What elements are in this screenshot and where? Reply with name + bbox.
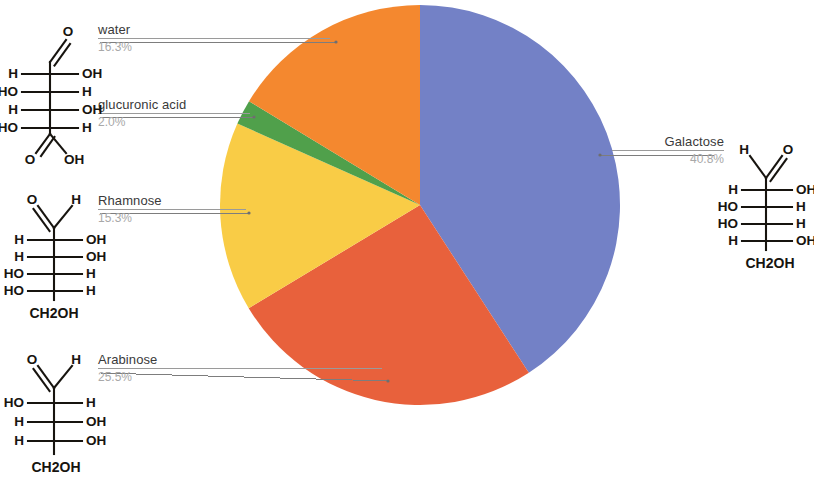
glucuronic-row-0-left: H <box>8 66 18 81</box>
glucuronic-row-3-left: HO <box>0 120 18 135</box>
glucuronic-bottom-left: O <box>25 152 36 167</box>
arabinose-top-left: O <box>27 352 38 367</box>
callout-water-label: water <box>98 22 330 37</box>
galactose-row-3-right: OH <box>796 233 814 248</box>
callout-glucuronic-acid: glucuronic acid 2.0% <box>98 97 250 129</box>
rhamnose-row-2-right: H <box>86 266 96 281</box>
arabinose-row-2-right: OH <box>86 433 106 448</box>
structure-arabinose: O H HO H H OH H OH CH2OH <box>4 350 108 478</box>
arabinose-row-2-left: H <box>14 433 24 448</box>
callout-galactose-value: 40.8% <box>612 152 724 166</box>
leader-dot-galactose <box>598 153 601 156</box>
galactose-bottom-label: CH2OH <box>745 255 794 271</box>
galactose-top-left: H <box>739 142 749 157</box>
rhamnose-top-left: O <box>27 192 38 207</box>
callout-glucuronic-acid-value: 2.0% <box>98 115 250 129</box>
callout-arabinose: Arabinose 25.5% <box>98 352 382 384</box>
callout-rhamnose: Rhamnose 15.3% <box>98 193 246 225</box>
rhamnose-row-0-right: OH <box>86 232 106 247</box>
arabinose-top-right: H <box>71 352 81 367</box>
callout-galactose-rule <box>612 150 724 151</box>
leader-dot-water <box>334 40 337 43</box>
leader-dot-arabinose <box>386 379 389 382</box>
galactose-row-0-right: OH <box>796 182 814 197</box>
structure-glucuronic-acid: O H OH HO H H OH HO H O OH <box>2 16 98 166</box>
glucuronic-row-1-right: H <box>82 84 92 99</box>
glucuronic-row-2-right: OH <box>82 102 102 117</box>
structure-rhamnose: O H H OH H OH HO H HO H CH2OH <box>4 190 108 322</box>
callout-water: water 16.3% <box>98 22 330 54</box>
arabinose-row-0-left: HO <box>4 395 24 410</box>
callout-rhamnose-label: Rhamnose <box>98 193 246 208</box>
callout-rhamnose-value: 15.3% <box>98 211 246 225</box>
rhamnose-row-1-right: OH <box>86 249 106 264</box>
galactose-row-2-left: HO <box>718 216 738 231</box>
leader-dot-rhamnose <box>247 211 250 214</box>
rhamnose-row-1-left: H <box>14 249 24 264</box>
arabinose-bottom-label: CH2OH <box>31 459 80 475</box>
arabinose-row-1-right: OH <box>86 414 106 429</box>
rhamnose-row-2-left: HO <box>4 266 24 281</box>
callout-arabinose-rule <box>98 368 382 369</box>
galactose-row-0-left: H <box>728 182 738 197</box>
glucuronic-bottom-right: OH <box>64 152 84 167</box>
rhamnose-row-3-right: H <box>86 283 96 298</box>
arabinose-row-0-right: H <box>86 395 96 410</box>
rhamnose-bottom-label: CH2OH <box>29 305 78 321</box>
callout-arabinose-label: Arabinose <box>98 352 382 367</box>
rhamnose-row-0-left: H <box>14 232 24 247</box>
galactose-row-3-left: H <box>728 233 738 248</box>
callout-glucuronic-acid-label: glucuronic acid <box>98 97 250 112</box>
glucuronic-top-label: O <box>63 24 74 39</box>
glucuronic-row-0-right: OH <box>82 66 102 81</box>
callout-water-value: 16.3% <box>98 40 330 54</box>
glucuronic-row-1-left: HO <box>0 84 18 99</box>
callout-water-rule <box>98 38 330 39</box>
glucuronic-row-3-right: H <box>82 120 92 135</box>
callout-galactose: Galactose 40.8% <box>612 134 724 166</box>
structure-galactose: H O H OH HO H HO H H OH CH2OH <box>722 140 814 274</box>
callout-arabinose-value: 25.5% <box>98 370 382 384</box>
arabinose-row-1-left: H <box>14 414 24 429</box>
glucuronic-row-2-left: H <box>8 102 18 117</box>
rhamnose-row-3-left: HO <box>4 283 24 298</box>
galactose-top-right: O <box>783 142 794 157</box>
callout-rhamnose-rule <box>98 209 246 210</box>
rhamnose-top-right: H <box>71 192 81 207</box>
leader-dot-glucuronic-acid <box>252 115 255 118</box>
callout-galactose-label: Galactose <box>612 134 724 149</box>
galactose-row-1-left: HO <box>718 199 738 214</box>
galactose-row-1-right: H <box>796 199 806 214</box>
callout-glucuronic-acid-rule <box>98 113 250 114</box>
galactose-row-2-right: H <box>796 216 806 231</box>
